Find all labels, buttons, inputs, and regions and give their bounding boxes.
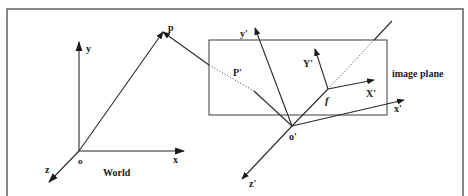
world-y-label: y [86,43,91,54]
world-label: World [103,167,131,178]
world-x-label: x [173,154,178,165]
point-p-label: p [168,22,174,33]
image-plane-label: image plane [392,68,444,79]
focal-length-label: f [325,94,330,106]
world-origin-label: o [78,156,83,166]
world-to-point-vector [79,32,163,151]
projection-ray-dotted [209,65,254,91]
camera-z-label: z' [249,178,256,189]
projection-ray-inner [254,91,292,126]
camera-y-label: y' [240,28,248,39]
optical-axis [292,89,328,126]
optical-axis-far [374,21,392,40]
image-Y-axis [315,49,328,89]
projected-point-label: P' [233,67,242,78]
projection-ray-outer [163,32,209,65]
camera-projection-diagram: y x z o World p P' y' x' z' o' f Y' X' i… [0,0,468,196]
camera-x-label: x' [394,103,402,114]
camera-y-axis [255,28,292,126]
world-z-label: z [45,164,50,175]
image-Y-label: Y' [303,58,313,69]
camera-origin-label: o' [289,131,297,142]
image-X-label: X' [366,88,376,99]
world-z-axis [49,151,79,182]
camera-z-axis [242,126,292,179]
